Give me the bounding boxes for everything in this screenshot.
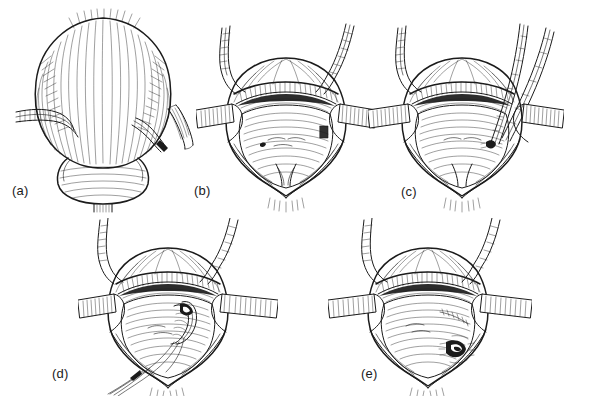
- excised-ureteral-segment: [168, 105, 193, 149]
- panel-label-c: (c): [401, 185, 417, 198]
- panel-label-b: (b): [194, 184, 211, 197]
- panel-d-artwork: [78, 218, 278, 396]
- left-ureter: [98, 218, 123, 284]
- bladder-neck: [57, 158, 148, 212]
- right-retractor-blade: [211, 294, 278, 332]
- trigone: [239, 105, 333, 188]
- left-ureter: [220, 26, 245, 94]
- panel-label-a: (a): [12, 184, 29, 197]
- panel-a-artwork: [8, 8, 198, 213]
- everted-wall-flaps: [228, 140, 344, 212]
- panel-c-artwork: [368, 22, 564, 214]
- ureteral-stump-in-lumen: [171, 301, 197, 344]
- cut-bladder-edge-hatching: [116, 272, 220, 302]
- tunnel-suture-line: [440, 309, 468, 326]
- panel-label-e: (e): [361, 367, 378, 380]
- right-ureter: [316, 24, 354, 94]
- cut-bladder-edge-hatching: [234, 82, 338, 112]
- bladder-dome: [35, 9, 171, 168]
- left-retractor-blade: [328, 294, 385, 332]
- panel-e-artwork: [328, 218, 532, 396]
- left-retractor-blade: [78, 294, 125, 332]
- panel-label-d: (d): [52, 367, 69, 380]
- panel-b-artwork: [196, 22, 376, 214]
- right-retractor-blade: [471, 294, 532, 332]
- everted-wall-flaps: [404, 140, 520, 212]
- panel-e: (e): [328, 218, 532, 396]
- right-ureter: [462, 218, 500, 284]
- left-ureteric-orifice: [260, 143, 266, 148]
- right-ureteral-stump: [320, 126, 328, 138]
- panel-c: (c): [368, 22, 564, 214]
- panel-b: (b): [196, 22, 376, 214]
- left-ureter: [16, 109, 78, 137]
- left-retractor-blade: [368, 104, 419, 142]
- left-ureter: [396, 26, 421, 94]
- panel-d: (d): [78, 218, 278, 396]
- left-ureter: [362, 218, 387, 284]
- left-retractor-blade: [196, 104, 243, 142]
- trigone: [381, 295, 475, 378]
- trigone: [121, 295, 215, 378]
- cut-bladder-edge-hatching: [410, 82, 514, 112]
- cut-bladder-edge-hatching: [376, 272, 480, 302]
- illustration-plate: (a): [0, 0, 610, 396]
- panel-a: (a): [8, 8, 198, 213]
